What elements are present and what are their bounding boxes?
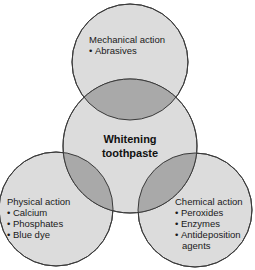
chemical-item: Enzymes — [175, 218, 243, 229]
center-label: Whitening toothpaste — [80, 132, 180, 160]
mechanical-label: Mechanical action Abrasives — [89, 34, 165, 56]
chemical-label: Chemical action Peroxides Enzymes Antide… — [175, 196, 243, 251]
physical-item: Blue dye — [7, 229, 70, 240]
physical-item: Calcium — [7, 207, 70, 218]
chemical-item: Peroxides — [175, 207, 243, 218]
mechanical-title: Mechanical action — [89, 34, 165, 45]
mechanical-item: Abrasives — [89, 45, 165, 56]
center-title-line1: Whitening — [80, 132, 180, 146]
chemical-item-continuation: agents — [175, 240, 243, 251]
chemical-item: Antideposition — [175, 229, 243, 240]
physical-item: Phosphates — [7, 218, 70, 229]
physical-title: Physical action — [7, 196, 70, 207]
physical-label: Physical action Calcium Phosphates Blue … — [7, 196, 70, 240]
center-title-line2: toothpaste — [80, 146, 180, 160]
chemical-title: Chemical action — [175, 196, 243, 207]
